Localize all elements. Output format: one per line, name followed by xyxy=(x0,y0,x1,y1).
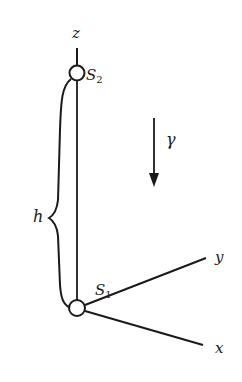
gravity-label: γ xyxy=(166,130,176,149)
top-point-s2-circle xyxy=(70,66,85,81)
x-axis-line xyxy=(85,311,203,345)
height-brace xyxy=(49,79,71,308)
x-axis-label: x xyxy=(215,339,224,357)
gravity-arrow-head-icon xyxy=(149,173,159,187)
z-axis-label: z xyxy=(71,24,80,42)
height-label: h xyxy=(33,207,43,226)
diagram-canvas: z S2 γ h S1 y x xyxy=(0,0,242,382)
bottom-point-label: S1 xyxy=(95,281,112,300)
bottom-point-s1-circle xyxy=(69,300,85,316)
top-point-label: S2 xyxy=(86,66,103,85)
y-axis-label: y xyxy=(214,248,224,266)
